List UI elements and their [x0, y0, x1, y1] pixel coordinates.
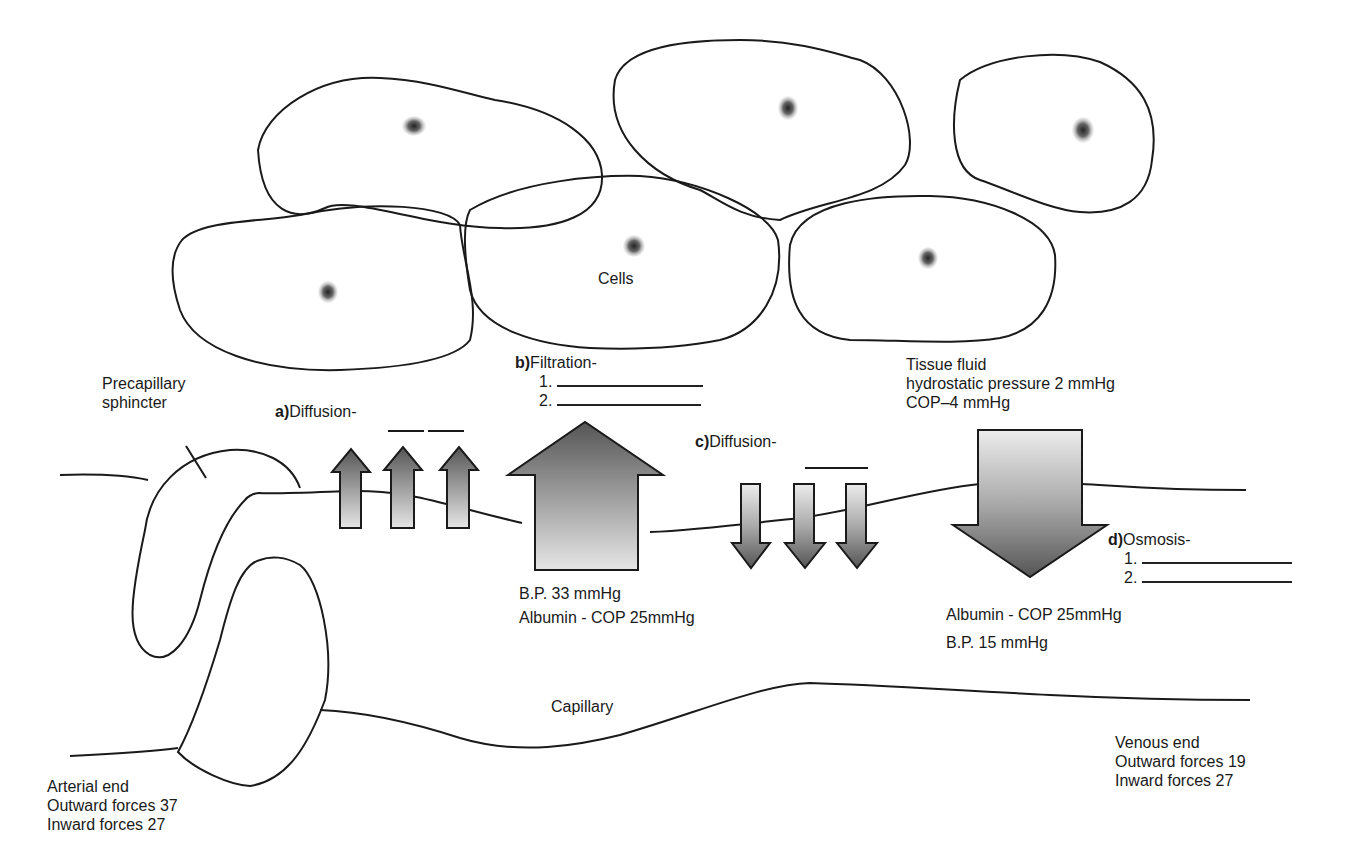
capillary-exchange-diagram [0, 0, 1350, 854]
capillary-lower-wall [70, 748, 178, 756]
precapillary-sphincter-label: Precapillary sphincter [102, 374, 186, 412]
filtration-arrow [508, 422, 663, 570]
tissue-fluid-label: Tissue fluid hydrostatic pressure 2 mmHg… [906, 355, 1115, 412]
venous-pressures: Albumin - COP 25mmHg B.P. 15 mmHg [946, 601, 1122, 657]
capillary-upper-wall [60, 475, 148, 480]
cell-nuclei [318, 96, 1094, 303]
arterial-pressures: B.P. 33 mmHg Albumin - COP 25mmHg [519, 582, 695, 630]
venous-end-summary: Venous end Outward forces 19 Inward forc… [1115, 733, 1246, 790]
cells-label: Cells [598, 269, 634, 288]
label-c-diffusion: c)Diffusion- [695, 432, 777, 451]
cell-6 [789, 196, 1055, 342]
capillary-label: Capillary [551, 697, 613, 716]
label-a-diffusion: a)Diffusion- [275, 402, 357, 421]
arterial-end-summary: Arterial end Outward forces 37 Inward fo… [47, 777, 178, 834]
precapillary-sphincter [133, 450, 301, 657]
osmosis-arrow [953, 430, 1107, 577]
diffusion-arrows-down [732, 484, 877, 568]
diffusion-arrows-up [332, 447, 478, 528]
label-b-filtration: b)Filtration- 1. 2. [515, 353, 703, 410]
cell-1 [258, 78, 602, 228]
cell-2 [614, 40, 910, 220]
cell-3 [954, 55, 1154, 212]
label-d-osmosis: d)Osmosis- 1. 2. [1108, 530, 1292, 587]
cell-5 [465, 176, 779, 349]
